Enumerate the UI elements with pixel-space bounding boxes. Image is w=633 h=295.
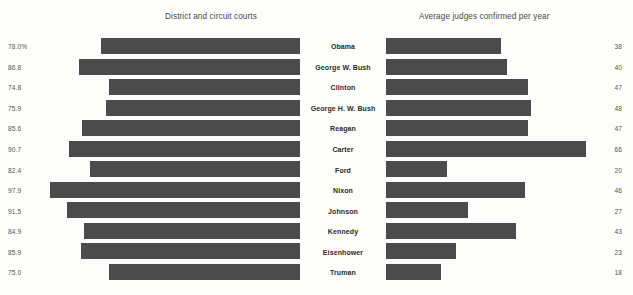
left-bar [50,182,300,198]
right-bar [386,59,507,75]
left-bar [109,264,300,280]
right-value-label: 47 [584,84,622,91]
left-bar-track [45,59,300,75]
paired-bar-chart: District and circuit courts Average judg… [0,0,633,295]
chart-row: 84.9Kennedy43 [0,221,633,242]
panel-headers: District and circuit courts Average judg… [0,0,633,32]
left-value-label: 74.8 [8,84,44,91]
category-label: Carter [303,146,383,153]
right-bar [386,161,447,177]
category-label: Ford [303,166,383,173]
chart-row: 85.6Reagan47 [0,118,633,139]
left-value-label: 90.7 [8,146,44,153]
chart-row: 90.7Carter66 [0,139,633,160]
left-bar [81,243,300,259]
left-bar [67,202,300,218]
category-label: Kennedy [303,228,383,235]
chart-row: 91.5Johnson27 [0,200,633,221]
right-bar [386,120,528,136]
left-bar [82,120,300,136]
right-bar-track [386,182,598,198]
left-bar-track [45,141,300,157]
right-bar-track [386,202,598,218]
chart-row: 82.4Ford20 [0,159,633,180]
right-bar-track [386,38,598,54]
right-bar [386,202,468,218]
right-bar-track [386,100,598,116]
chart-rows: 78.0%Obama3886.8George W. Bush4074.8Clin… [0,36,633,283]
right-value-label: 47 [584,125,622,132]
category-label: Johnson [303,207,383,214]
left-bar [69,141,300,157]
left-value-label: 78.0% [8,43,44,50]
right-bar-track [386,141,598,157]
chart-row: 85.9Eisenhower23 [0,241,633,262]
left-bar-track [45,243,300,259]
chart-row: 75.9George H. W. Bush48 [0,98,633,119]
chart-row: 75.0Truman18 [0,262,633,283]
left-bar-track [45,264,300,280]
right-bar-track [386,223,598,239]
right-bar-track [386,264,598,280]
right-bar [386,38,501,54]
left-bar-track [45,79,300,95]
left-bar [106,100,300,116]
right-bar [386,264,441,280]
category-label: George H. W. Bush [303,104,383,111]
left-bar [101,38,300,54]
right-value-label: 38 [584,43,622,50]
panel-title-district-and-circuit-courts: District and circuit courts [165,12,257,21]
left-value-label: 85.9 [8,248,44,255]
right-bar [386,223,516,239]
chart-row: 74.8Clinton47 [0,77,633,98]
left-bar [79,59,300,75]
right-bar [386,100,531,116]
category-label: Nixon [303,187,383,194]
right-value-label: 23 [584,248,622,255]
right-value-label: 18 [584,269,622,276]
category-label: Truman [303,269,383,276]
right-value-label: 46 [584,187,622,194]
chart-row: 78.0%Obama38 [0,36,633,57]
right-bar-track [386,243,598,259]
left-bar-track [45,120,300,136]
right-value-label: 27 [584,207,622,214]
left-value-label: 84.9 [8,228,44,235]
right-bar-track [386,161,598,177]
left-value-label: 91.5 [8,207,44,214]
right-bar [386,182,525,198]
right-bar-track [386,79,598,95]
category-label: Eisenhower [303,248,383,255]
chart-row: 86.8George W. Bush40 [0,57,633,78]
left-value-label: 97.9 [8,187,44,194]
right-value-label: 48 [584,104,622,111]
left-value-label: 75.0 [8,269,44,276]
right-bar [386,243,456,259]
right-value-label: 20 [584,166,622,173]
left-value-label: 85.6 [8,125,44,132]
right-value-label: 66 [584,146,622,153]
right-bar-track [386,59,598,75]
left-bar-track [45,161,300,177]
category-label: Reagan [303,125,383,132]
category-label: Clinton [303,84,383,91]
left-bar-track [45,202,300,218]
left-bar-track [45,38,300,54]
left-bar-track [45,223,300,239]
left-bar-track [45,182,300,198]
left-bar [84,223,301,239]
right-value-label: 40 [584,63,622,70]
left-value-label: 82.4 [8,166,44,173]
category-label: George W. Bush [303,63,383,70]
left-value-label: 86.8 [8,63,44,70]
category-label: Obama [303,43,383,50]
left-value-label: 75.9 [8,104,44,111]
right-value-label: 43 [584,228,622,235]
right-bar [386,141,586,157]
left-bar-track [45,100,300,116]
left-bar [90,161,300,177]
panel-title-average-judges-confirmed-per-year: Average judges confirmed per year [419,12,550,21]
right-bar-track [386,120,598,136]
left-bar [109,79,300,95]
right-bar [386,79,528,95]
